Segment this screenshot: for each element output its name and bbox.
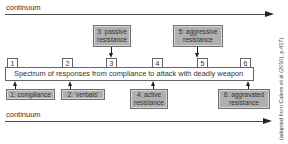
bottom-continuum-label: continuum <box>6 110 41 119</box>
source-note: (adapted from Caless et al (2010), p.417… <box>278 38 284 140</box>
box-line: 4: active <box>137 91 162 98</box>
box-line: 6: aggravated <box>224 91 264 98</box>
box-line: 3: passive <box>97 28 127 35</box>
box-line: resistance <box>134 99 164 106</box>
box-line: resistance <box>183 36 213 43</box>
box-compliance: 1: compliance <box>6 89 55 100</box>
box-passive-resistance: 3: passiveresistance <box>93 25 131 47</box>
top-continuum-arrowhead-icon <box>265 11 274 17</box>
spectrum-bar: Spectrum of responses from compliance to… <box>5 67 254 81</box>
top-continuum-line <box>5 14 267 15</box>
box-active-resistance: 4: activeresistance <box>130 89 168 109</box>
box-line: 5: aggressive <box>178 28 217 35</box>
box-line: 1: compliance <box>10 91 51 99</box>
box-aggressive-resistance: 5: aggressiveresistance <box>173 25 223 47</box>
box-line: resistance <box>97 36 127 43</box>
box-line: resistance <box>229 99 259 106</box>
box-line: 2: 'verbals' <box>67 91 98 99</box>
box-verbals: 2: 'verbals' <box>61 89 105 100</box>
top-continuum-label: continuum <box>6 3 41 12</box>
bottom-continuum-line <box>5 121 267 122</box>
box-aggravated-resistance: 6: aggravatedresistance <box>218 89 270 109</box>
bottom-continuum-arrowhead-icon <box>263 118 272 124</box>
